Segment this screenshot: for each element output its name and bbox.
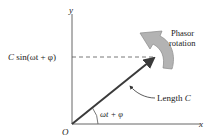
- rotation-arrow-icon: [140, 31, 174, 69]
- length-label: Length C: [157, 93, 192, 103]
- x-axis-label: x: [198, 119, 203, 129]
- origin-label: O: [62, 127, 69, 137]
- length-pointer: [130, 86, 155, 98]
- angle-label: ωt + φ: [100, 109, 123, 119]
- angle-arc: [93, 108, 99, 124]
- y-axis-label: y: [68, 5, 73, 15]
- projection-label: C sin(ωt + φ): [8, 52, 56, 62]
- rotation-label-line2: rotation: [169, 38, 196, 48]
- rotation-label-line1: Phasor: [171, 28, 194, 38]
- phasor-diagram: y x O C sin(ωt + φ) ωt + φ Length C Phas…: [0, 0, 210, 140]
